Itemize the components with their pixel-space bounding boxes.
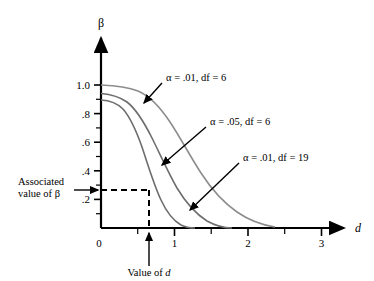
x-axis-ticks xyxy=(138,228,322,236)
series-label-alpha-05-df-6: α = .05, df = 6 xyxy=(210,116,270,127)
x-tick-label-1: 1 xyxy=(172,237,178,249)
x-tick-label-2: 2 xyxy=(245,237,251,249)
y-axis-label: β xyxy=(98,16,104,30)
annot-beta-line1: Associated xyxy=(18,176,65,187)
arrow-to-curve-alpha-01-df-19 xyxy=(190,163,239,210)
y-tick-label-0.6: .6 xyxy=(82,136,91,148)
annot-d-text: Value of d xyxy=(127,267,171,278)
y-tick-label-0.8: .8 xyxy=(82,108,91,120)
y-tick-label-1.0: 1.0 xyxy=(76,79,90,91)
chart-svg: 1.0 .8 .6 .4 .2 0 1 2 3 β d α = .01, df … xyxy=(0,0,374,281)
curve-alpha-01-df-19 xyxy=(101,100,195,228)
x-tick-label-0: 0 xyxy=(96,237,102,249)
annotation-value-of-d: Value of d xyxy=(127,233,171,278)
arrow-to-curve-alpha-05-df-6 xyxy=(162,127,206,165)
series-label-alpha-01-df-6: α = .01, df = 6 xyxy=(166,72,226,83)
annot-beta-line2: value of β xyxy=(18,188,60,199)
y-tick-label-0.4: .4 xyxy=(82,165,91,177)
arrow-to-curve-alpha-01-df-6 xyxy=(144,83,162,103)
reference-dashed-lines xyxy=(101,190,149,228)
x-tick-label-3: 3 xyxy=(319,237,325,249)
power-curve-figure: 1.0 .8 .6 .4 .2 0 1 2 3 β d α = .01, df … xyxy=(0,0,374,281)
series-label-alpha-01-df-19: α = .01, df = 19 xyxy=(243,152,308,163)
x-axis-label: d xyxy=(355,221,362,235)
y-tick-label-0.2: .2 xyxy=(82,193,90,205)
